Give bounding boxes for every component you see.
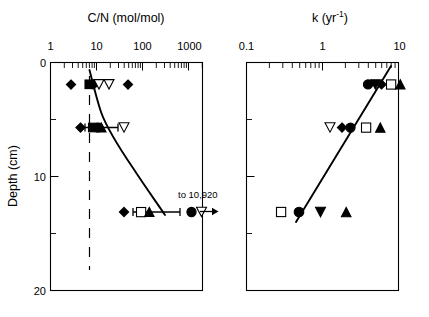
- offscale-annotation: to 10,920: [178, 189, 218, 200]
- marker-open-square: [277, 207, 286, 216]
- right-xtick-label-10: 10: [393, 40, 405, 52]
- marker-filled-diamond: [119, 207, 128, 216]
- marker-filled-diamond: [337, 123, 346, 132]
- right-panel-group: k (yr-1): [239, 9, 406, 291]
- right-y-axis-ticks: [247, 63, 255, 291]
- right-panel-title: k (yr-1): [312, 9, 348, 25]
- left-markers-shallow: [66, 80, 132, 90]
- ytick-label-0: 0: [40, 57, 46, 69]
- y-axis-ticks: [51, 63, 59, 291]
- marker-filled-diamond: [66, 80, 75, 89]
- marker-filled-triangle-down: [316, 207, 326, 217]
- left-xtick-label-10: 10: [90, 40, 102, 52]
- right-xtick-label-1: 1: [319, 40, 325, 52]
- figure-panel: C/N (mol/mol): [0, 0, 429, 317]
- marker-filled-circle: [187, 207, 196, 216]
- left-markers-mid: [76, 123, 129, 132]
- right-markers-deep: [277, 207, 352, 217]
- left-xtick-label-1000: 1000: [177, 40, 201, 52]
- marker-open-square: [387, 80, 396, 89]
- marker-open-triangle-down: [119, 123, 129, 132]
- marker-open-square: [362, 123, 371, 132]
- right-title-tail: ): [344, 11, 348, 25]
- right-xtick-label-0p1: 0.1: [239, 40, 254, 52]
- ytick-label-10: 10: [34, 171, 46, 183]
- marker-open-triangle-down: [325, 123, 335, 132]
- right-plot-frame: [247, 63, 399, 291]
- marker-open-square: [137, 208, 146, 217]
- left-plot-frame: [51, 63, 203, 291]
- marker-filled-triangle-up: [341, 207, 351, 216]
- marker-open-triangle-down: [104, 80, 114, 89]
- left-trend-line: [90, 70, 166, 215]
- dual-panel-depth-profile-chart: C/N (mol/mol): [0, 0, 429, 317]
- left-x-major-ticks: [51, 63, 189, 71]
- left-xtick-label-1: 1: [47, 40, 53, 52]
- right-title-main: k (yr: [312, 11, 336, 25]
- left-panel-title: C/N (mol/mol): [87, 11, 164, 25]
- ytick-label-20: 20: [34, 285, 46, 297]
- left-xtick-label-100: 100: [133, 40, 151, 52]
- marker-filled-diamond: [123, 80, 132, 89]
- marker-filled-circle: [346, 123, 355, 132]
- marker-filled-diamond: [76, 123, 85, 132]
- right-trend-line: [296, 66, 391, 222]
- left-panel-group: C/N (mol/mol): [6, 11, 219, 297]
- left-markers-deep: to 10,920: [119, 189, 218, 217]
- marker-filled-circle: [294, 207, 304, 217]
- marker-filled-triangle-up: [396, 80, 405, 89]
- y-axis-title: Depth (cm): [6, 145, 20, 207]
- marker-filled-triangle-up: [376, 123, 385, 132]
- left-x-minor-ticks: [64, 63, 202, 69]
- right-x-minor-ticks: [269, 63, 395, 69]
